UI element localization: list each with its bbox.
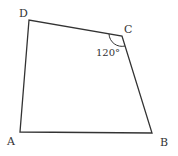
- angle-label-c: 120°: [96, 47, 120, 58]
- quadrilateral-abcd: [20, 20, 152, 133]
- quadrilateral-figure: A B C D 120°: [0, 0, 178, 156]
- vertex-label-a: A: [6, 135, 16, 148]
- vertex-label-b: B: [160, 136, 168, 149]
- vertex-label-d: D: [19, 7, 28, 20]
- vertex-label-c: C: [124, 23, 132, 36]
- diagram-canvas: A B C D 120°: [0, 0, 178, 156]
